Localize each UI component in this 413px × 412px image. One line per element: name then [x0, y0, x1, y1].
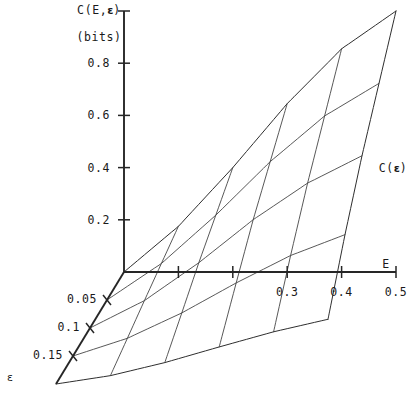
vertical-tick-label: 0.8 — [87, 56, 110, 70]
mesh-curve-eps-0p2 — [56, 319, 328, 384]
horizontal-tick-labels: 0.30.40.5 — [276, 285, 407, 299]
horizontal-tick-label: 0.3 — [276, 285, 299, 299]
mesh-curve-E-0p3 — [219, 104, 287, 347]
depth-tick-label: 0.05 — [67, 292, 97, 306]
horizontal-axis-label: E — [382, 257, 390, 271]
surface-plot-svg: C(E,ε) (bits) E ε C(ε) 0.20.40.60.8 0.30… — [0, 0, 413, 412]
figure-canvas: C(E,ε) (bits) E ε C(ε) 0.20.40.60.8 0.30… — [0, 0, 413, 412]
mesh-curve-eps-0p1 — [90, 156, 362, 328]
mesh-e-curves — [110, 11, 396, 376]
vertical-tick-label: 0.2 — [87, 213, 110, 227]
vertical-axis-label: C(E,ε) — [77, 3, 121, 17]
surface-edge-label: C(ε) — [379, 161, 408, 175]
depth-tick-label: 0.15 — [33, 348, 63, 362]
vertical-axis-units-label: (bits) — [76, 30, 121, 44]
vertical-tick-label: 0.6 — [87, 108, 110, 122]
horizontal-tick-label: 0.4 — [330, 285, 353, 299]
horizontal-tick-label: 0.5 — [385, 285, 408, 299]
depth-tick-label: 0.1 — [57, 320, 80, 334]
depth-axis-label: ε — [7, 371, 13, 384]
vertical-tick-label: 0.4 — [87, 161, 110, 175]
vertical-tick-labels: 0.20.40.60.8 — [87, 56, 110, 227]
mesh-curve-eps-0 — [124, 11, 396, 272]
